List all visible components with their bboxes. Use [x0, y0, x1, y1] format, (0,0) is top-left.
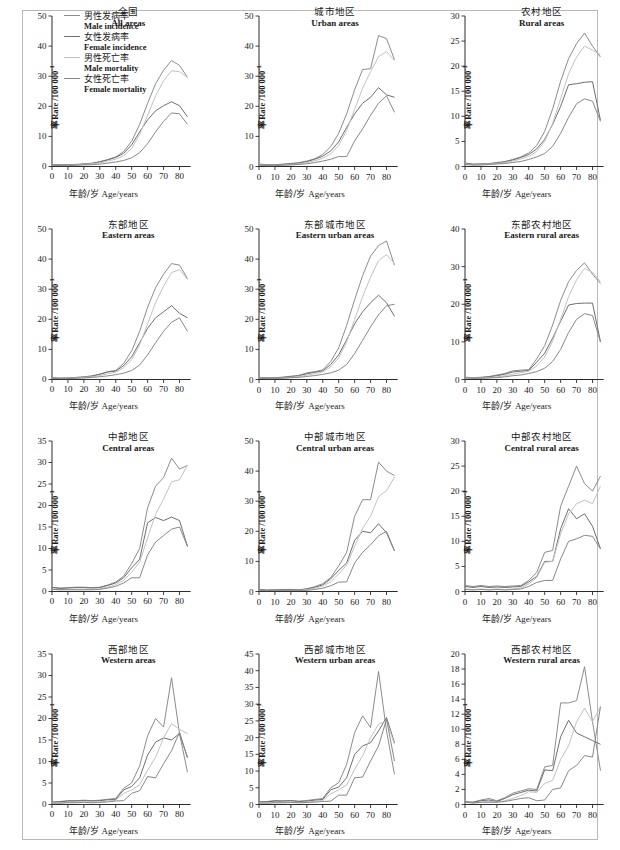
x-axis-label-en: Age/years — [515, 401, 551, 411]
series-line-female-incidence — [52, 102, 187, 165]
chart-panel-central-urban-areas: 0102030405001020304050607080中部城市地区Centra… — [207, 425, 414, 638]
x-tick-label: 60 — [350, 809, 360, 819]
y-tick-label: 20 — [451, 61, 461, 71]
x-tick-label: 80 — [175, 809, 184, 819]
x-tick-label: 40 — [111, 596, 120, 606]
x-tick-label: 30 — [509, 384, 519, 394]
x-axis-label: 年龄/岁 Age/years — [207, 824, 414, 837]
x-axis-label-en: Age/years — [308, 826, 344, 836]
x-tick-label: 10 — [477, 172, 487, 182]
y-tick-label: 10 — [244, 344, 254, 354]
chart-canvas: 0102030405001020304050607080 — [0, 213, 207, 426]
chart-panel-urban-areas: 0102030405001020304050607080城市地区Urban ar… — [207, 0, 414, 213]
y-tick-label: 14 — [451, 694, 461, 704]
y-tick-label: 20 — [244, 732, 254, 742]
x-axis-label: 年龄/岁 Age/years — [413, 399, 620, 412]
chart-panel-eastern-rural-areas: 01020304001020304050607080东部农村地区Eastern … — [413, 213, 620, 426]
x-tick-label: 60 — [350, 597, 360, 607]
x-axis-label: 年龄/岁 Age/years — [0, 824, 207, 837]
series-line-female-incidence — [465, 303, 600, 378]
chart-canvas: 0510152025303501020304050607080 — [0, 425, 207, 638]
y-axis-label: 率Rate /100 000-1 — [254, 65, 266, 129]
x-tick-label: 80 — [588, 172, 598, 182]
y-tick-label: 30 — [244, 284, 254, 294]
y-tick-label: 35 — [38, 649, 47, 659]
y-tick-label: 5 — [42, 777, 47, 787]
x-axis-label-en: Age/years — [515, 614, 551, 624]
x-tick-label: 80 — [382, 172, 392, 182]
x-tick-label: 60 — [143, 596, 152, 606]
x-tick-label: 50 — [127, 809, 136, 819]
y-tick-label: 20 — [38, 501, 47, 511]
x-tick-label: 40 — [525, 172, 535, 182]
chart-canvas: 0102030405001020304050607080 — [207, 0, 414, 213]
x-tick-label: 50 — [541, 384, 550, 394]
y-tick-label: 20 — [451, 486, 461, 496]
y-tick-label: 35 — [38, 436, 47, 446]
x-tick-label: 40 — [318, 809, 328, 819]
x-tick-label: 40 — [525, 384, 535, 394]
x-axis-label-cn: 年龄/岁 — [482, 826, 515, 836]
y-tick-label: 40 — [244, 254, 254, 264]
x-tick-label: 50 — [541, 809, 550, 819]
series-line-male-mortality — [465, 486, 600, 589]
x-tick-label: 20 — [286, 172, 296, 182]
y-tick-label: 50 — [244, 436, 254, 446]
y-tick-label: 20 — [244, 526, 254, 536]
x-tick-label: 80 — [588, 809, 598, 819]
x-tick-label: 40 — [318, 597, 328, 607]
y-tick-label: 10 — [38, 543, 47, 553]
x-tick-label: 70 — [572, 809, 582, 819]
x-tick-label: 80 — [175, 596, 184, 606]
y-tick-label: 25 — [451, 461, 461, 471]
x-axis-label: 年龄/岁 Age/years — [413, 824, 620, 837]
y-tick-label: 20 — [244, 101, 254, 111]
x-tick-label: 40 — [111, 384, 120, 394]
chart-canvas: 05101520253001020304050607080 — [413, 0, 620, 213]
x-tick-label: 20 — [286, 597, 296, 607]
x-axis-label-cn: 年龄/岁 — [69, 401, 102, 411]
x-tick-label: 70 — [366, 172, 376, 182]
y-tick-label: 0 — [42, 161, 47, 171]
series-line-male-incidence — [465, 262, 600, 377]
chart-canvas: 0246810121416182001020304050607080 — [413, 638, 620, 850]
x-tick-label: 10 — [270, 597, 280, 607]
x-tick-label: 10 — [477, 809, 487, 819]
series-line-male-mortality — [52, 466, 187, 590]
y-tick-label: 30 — [244, 71, 254, 81]
series-line-female-incidence — [52, 517, 187, 588]
x-tick-label: 30 — [509, 172, 519, 182]
x-tick-label: 0 — [50, 809, 55, 819]
x-tick-label: 10 — [270, 172, 280, 182]
y-tick-label: 25 — [38, 692, 47, 702]
x-axis-label: 年龄/岁 Age/years — [413, 187, 620, 200]
x-tick-label: 30 — [509, 597, 519, 607]
series-line-male-mortality — [259, 720, 394, 802]
series-line-female-incidence — [52, 733, 187, 802]
y-tick-label: 10 — [38, 344, 47, 354]
y-tick-label: 50 — [244, 224, 254, 234]
x-tick-label: 60 — [556, 172, 566, 182]
y-tick-label: 30 — [38, 71, 47, 81]
x-tick-label: 70 — [159, 384, 168, 394]
series-line-male-mortality — [259, 254, 394, 378]
series-line-male-mortality — [465, 268, 600, 377]
x-tick-label: 80 — [382, 809, 392, 819]
x-axis-label: 年龄/岁 Age/years — [207, 612, 414, 625]
y-tick-label: 30 — [451, 261, 461, 271]
series-line-male-mortality — [52, 269, 187, 378]
x-axis-label: 年龄/岁 Age/years — [0, 612, 207, 625]
chart-canvas: 0102030405001020304050607080 — [207, 425, 414, 638]
x-tick-label: 30 — [95, 171, 104, 181]
chart-panel-rural-areas: 05101520253001020304050607080农村地区Rural a… — [413, 0, 620, 213]
chart-canvas: 0102030405001020304050607080 — [207, 213, 414, 426]
x-tick-label: 70 — [159, 596, 168, 606]
x-tick-label: 70 — [572, 597, 582, 607]
x-tick-label: 20 — [79, 171, 88, 181]
y-tick-label: 20 — [451, 649, 461, 659]
chart-panel-eastern-urban-areas: 0102030405001020304050607080东部城市地区Easter… — [207, 213, 414, 426]
y-tick-label: 30 — [244, 496, 254, 506]
y-tick-label: 15 — [451, 86, 461, 96]
x-axis-label: 年龄/岁 Age/years — [0, 399, 207, 412]
series-line-male-mortality — [52, 723, 187, 802]
